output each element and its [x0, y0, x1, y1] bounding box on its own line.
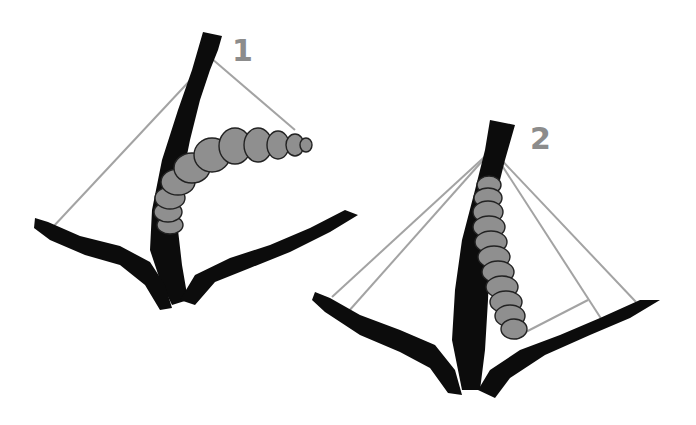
panel-label-2: 2 — [530, 124, 551, 154]
illustration-canvas — [0, 0, 696, 425]
panel-1 — [34, 32, 358, 310]
panel-label-1: 1 — [232, 36, 253, 66]
panel-2 — [312, 120, 660, 398]
